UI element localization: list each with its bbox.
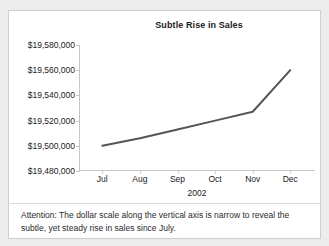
chart-panel: Subtle Rise in Sales $19,480,000$19,500,… — [8, 10, 321, 239]
y-tick-label: $19,560,000 — [13, 65, 75, 75]
y-axis-labels: $19,480,000$19,500,000$19,520,000$19,540… — [9, 11, 75, 240]
x-tick-mark — [140, 171, 141, 174]
x-tick-mark — [253, 171, 254, 174]
x-tick-label: Nov — [233, 174, 273, 184]
x-tick-label: Aug — [120, 174, 160, 184]
x-tick-mark — [102, 171, 103, 174]
x-tick-label: Oct — [195, 174, 235, 184]
y-tick-label: $19,580,000 — [13, 40, 75, 50]
caption-divider — [10, 203, 321, 204]
chart-caption: Attention: The dollar scale along the ve… — [21, 209, 313, 234]
y-tick-mark — [76, 171, 80, 172]
x-tick-mark — [178, 171, 179, 174]
x-tick-label: Dec — [270, 174, 310, 184]
y-tick-label: $19,520,000 — [13, 116, 75, 126]
x-tick-mark — [290, 171, 291, 174]
chart-title: Subtle Rise in Sales — [79, 20, 319, 30]
y-tick-label: $19,500,000 — [13, 141, 75, 151]
x-tick-mark — [215, 171, 216, 174]
series-line-sales — [79, 45, 314, 171]
x-tick-label: Jul — [82, 174, 122, 184]
x-tick-label: Sep — [158, 174, 198, 184]
x-axis-title: 2002 — [79, 188, 315, 198]
y-tick-label: $19,480,000 — [13, 166, 75, 176]
y-tick-label: $19,540,000 — [13, 90, 75, 100]
